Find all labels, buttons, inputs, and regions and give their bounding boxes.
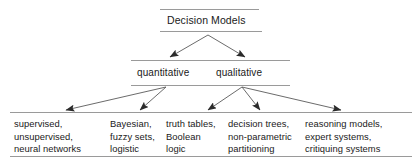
leaf-node-5-line-2: expert systems, xyxy=(305,131,382,144)
leaf-node-3-line-1: truth tables, xyxy=(166,118,216,131)
node-qualitative: qualitative xyxy=(216,67,262,79)
leaf-node-2-line-1: Bayesian, xyxy=(110,118,155,131)
leaf-node-4: decision trees, non-parametric partition… xyxy=(228,118,292,156)
leaf-node-1: supervised, unsupervised, neural network… xyxy=(14,118,81,156)
leaf-node-2-line-2: fuzzy sets, xyxy=(110,131,155,144)
decision-models-diagram: Decision Models quantitative qualitative… xyxy=(0,0,419,162)
leaf-node-4-line-2: non-parametric xyxy=(228,131,292,144)
leaf-node-3-line-2: Boolean xyxy=(166,131,216,144)
leaf-node-2: Bayesian, fuzzy sets, logistic xyxy=(110,118,155,156)
leaf-node-1-line-3: neural networks xyxy=(14,143,81,156)
edge-root-to-qualitative xyxy=(208,35,245,57)
leaf-node-3-line-3: logic xyxy=(166,143,216,156)
leaf-node-1-line-1: supervised, xyxy=(14,118,81,131)
node-quantitative: quantitative xyxy=(137,67,189,79)
leaf-node-5-line-1: reasoning models, xyxy=(305,118,382,131)
leaf-node-4-line-1: decision trees, xyxy=(228,118,292,131)
leaf-node-3: truth tables, Boolean logic xyxy=(166,118,216,156)
edge-quantitative-to-leaf-1 xyxy=(66,87,166,110)
leaf-node-1-line-2: unsupervised, xyxy=(14,131,81,144)
edge-qualitative-to-leaf-3 xyxy=(208,87,242,110)
edge-root-to-quantitative xyxy=(170,35,208,57)
leaf-node-5: reasoning models, expert systems, critiq… xyxy=(305,118,382,156)
leaf-node-5-line-3: critiquing systems xyxy=(305,143,382,156)
leaf-node-2-line-3: logistic xyxy=(110,143,155,156)
leaf-node-4-line-3: partitioning xyxy=(228,143,292,156)
node-decision-models: Decision Models xyxy=(167,15,246,27)
